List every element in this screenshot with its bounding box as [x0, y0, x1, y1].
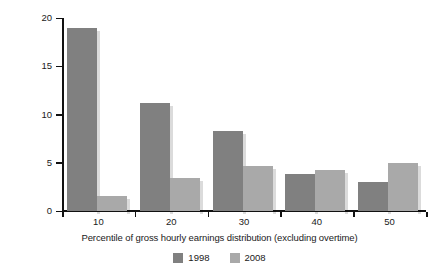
x-axis-tick: [135, 212, 137, 217]
bar-1998-50: [358, 182, 388, 211]
x-axis-tick-label: 40: [297, 216, 337, 228]
legend-swatch-icon: [173, 253, 183, 263]
y-axis-tick-label: 20: [30, 13, 52, 23]
bar-chart: Pay gap: ethnic minority groups (%) 0510…: [0, 0, 439, 276]
legend-item-2008: 2008: [230, 253, 266, 263]
x-axis-tick: [208, 212, 210, 217]
y-axis-tick-label-text: 5: [30, 158, 52, 168]
bar-1998-30: [213, 131, 243, 211]
x-axis-tick: [426, 212, 428, 217]
legend-swatch-icon: [230, 253, 240, 263]
x-axis-tick: [280, 212, 282, 217]
y-axis-tick-label-text: 15: [30, 61, 52, 71]
legend-item-1998: 1998: [173, 253, 209, 263]
bar-1998-20: [140, 103, 170, 211]
x-axis-tick: [353, 212, 355, 217]
y-axis-tick-label-text: 0: [30, 206, 52, 216]
y-axis-tick-label-text: 20: [30, 13, 52, 23]
bar-2008-20: [170, 178, 200, 211]
y-axis-tick-label-text: 10: [30, 110, 52, 120]
bar-2008-40: [315, 170, 345, 211]
bar-1998-10: [67, 28, 97, 211]
x-axis-tick-label: 10: [78, 216, 118, 228]
x-axis-title: Percentile of gross hourly earnings dist…: [0, 232, 439, 243]
bar-1998-40: [285, 174, 315, 211]
plot-area: [62, 18, 426, 211]
bar-2008-30: [243, 166, 273, 211]
x-axis-tick-label: 20: [151, 216, 191, 228]
bar-2008-10: [97, 196, 127, 211]
x-axis-tick-label: 50: [370, 216, 410, 228]
x-axis-tick: [62, 212, 64, 217]
y-axis-tick-label: 5: [30, 158, 52, 168]
y-axis-tick-label: 15: [30, 61, 52, 71]
x-axis-tick-label: 30: [224, 216, 264, 228]
chart-legend: 19982008: [0, 253, 439, 263]
legend-label: 2008: [245, 253, 266, 263]
legend-label: 1998: [188, 253, 209, 263]
y-axis-tick-label: 10: [30, 110, 52, 120]
y-axis-tick-label: 0: [30, 206, 52, 216]
bar-2008-50: [388, 163, 418, 211]
